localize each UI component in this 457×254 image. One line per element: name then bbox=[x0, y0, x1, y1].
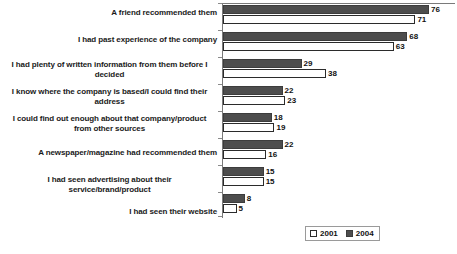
axis-tick bbox=[218, 84, 222, 85]
axis-tick bbox=[218, 57, 222, 58]
bar-2001[interactable] bbox=[223, 15, 415, 24]
category-label: A newspaper/magazine had recommended the… bbox=[2, 148, 217, 158]
bar-value-2004: 76 bbox=[431, 5, 440, 14]
bar-2001[interactable] bbox=[223, 42, 394, 51]
axis-tick bbox=[218, 138, 222, 139]
axis-tick bbox=[218, 192, 222, 193]
bar-value-2001: 19 bbox=[276, 123, 285, 132]
legend-label-2001: 2001 bbox=[320, 229, 338, 238]
bar-value-2004: 8 bbox=[247, 194, 251, 203]
bar-2004[interactable] bbox=[223, 194, 245, 203]
bar-2001[interactable] bbox=[223, 204, 237, 213]
category-label: I had seen their website bbox=[2, 207, 217, 217]
axis-tick bbox=[218, 216, 222, 217]
bar-2004[interactable] bbox=[223, 86, 283, 95]
bar-2004[interactable] bbox=[223, 140, 283, 149]
axis-tick bbox=[218, 30, 222, 31]
bar-2004[interactable] bbox=[223, 59, 302, 68]
bar-value-2001: 63 bbox=[396, 42, 405, 51]
category-label: I had plenty of written information from… bbox=[2, 60, 217, 80]
category-label: I could find out enough about that compa… bbox=[2, 114, 217, 134]
axis-tick bbox=[218, 3, 222, 4]
bar-value-2004: 68 bbox=[409, 32, 418, 41]
bar-value-2004: 15 bbox=[266, 167, 275, 176]
bar-2004[interactable] bbox=[223, 113, 272, 122]
bar-2004[interactable] bbox=[223, 167, 264, 176]
bar-value-2001: 16 bbox=[268, 150, 277, 159]
bar-2001[interactable] bbox=[223, 123, 274, 132]
bar-2004[interactable] bbox=[223, 32, 407, 41]
category-label: I had past experience of the company bbox=[2, 35, 217, 45]
legend-label-2004: 2004 bbox=[356, 229, 374, 238]
bar-2004[interactable] bbox=[223, 5, 429, 14]
legend-item-2004[interactable]: 2004 bbox=[346, 229, 374, 238]
legend-item-2001[interactable]: 2001 bbox=[310, 229, 338, 238]
category-label: A friend recommended them bbox=[2, 8, 217, 18]
dark-square-icon bbox=[346, 230, 353, 237]
chart-legend: 2001 2004 bbox=[305, 226, 380, 241]
axis-tick bbox=[218, 165, 222, 166]
bar-value-2001: 38 bbox=[328, 69, 337, 78]
bar-value-2004: 22 bbox=[285, 140, 294, 149]
grouped-bar-chart: A friend recommended them7671I had past … bbox=[0, 0, 457, 254]
category-label: I had seen advertising about theirservic… bbox=[2, 175, 217, 195]
category-label: I know where the company is based/I coul… bbox=[2, 87, 217, 107]
bar-value-2004: 22 bbox=[285, 86, 294, 95]
axis-tick bbox=[218, 111, 222, 112]
axis-top-cap bbox=[222, 3, 455, 4]
plot-area: A friend recommended them7671I had past … bbox=[0, 0, 457, 254]
bar-value-2001: 23 bbox=[287, 96, 296, 105]
bar-2001[interactable] bbox=[223, 69, 326, 78]
bar-value-2001: 15 bbox=[266, 177, 275, 186]
bar-2001[interactable] bbox=[223, 150, 266, 159]
bar-value-2001: 71 bbox=[417, 15, 426, 24]
bar-value-2004: 18 bbox=[274, 113, 283, 122]
white-square-icon bbox=[310, 230, 317, 237]
bar-value-2004: 29 bbox=[304, 59, 313, 68]
bar-2001[interactable] bbox=[223, 96, 285, 105]
bar-2001[interactable] bbox=[223, 177, 264, 186]
bar-value-2001: 5 bbox=[239, 204, 243, 213]
